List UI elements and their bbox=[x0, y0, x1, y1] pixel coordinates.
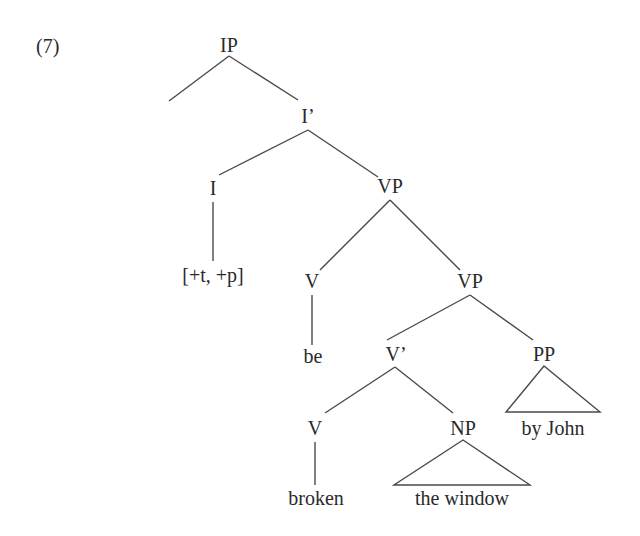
node-pp: PP bbox=[533, 344, 555, 364]
leaf-be: be bbox=[304, 346, 323, 366]
node-i-bar: I’ bbox=[301, 106, 314, 126]
node-ip: IP bbox=[220, 35, 238, 55]
node-v-be: V bbox=[305, 271, 319, 291]
leaf-by-john: by John bbox=[522, 418, 585, 438]
node-np: NP bbox=[450, 418, 476, 438]
leaf-the-window: the window bbox=[415, 488, 509, 508]
node-i-features: [+t, +p] bbox=[182, 265, 243, 285]
node-v-bar: V’ bbox=[385, 344, 406, 364]
tree-branches bbox=[0, 0, 640, 536]
node-vp-upper: VP bbox=[377, 176, 403, 196]
node-i: I bbox=[210, 178, 217, 198]
leaf-broken: broken bbox=[288, 488, 344, 508]
node-v-broken: V bbox=[308, 418, 322, 438]
node-vp-lower: VP bbox=[457, 271, 483, 291]
